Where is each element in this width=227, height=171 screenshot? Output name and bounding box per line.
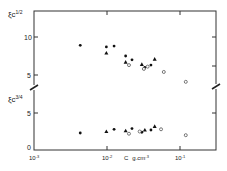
data-point-circle <box>138 130 141 133</box>
ytick-label: 10 <box>24 34 32 41</box>
data-point-circle <box>127 132 130 135</box>
xtick-label: 10-1 <box>175 154 186 161</box>
data-point-dot <box>113 128 116 131</box>
data-point-dot <box>113 45 116 48</box>
ylabel-upper: ξc1/2 <box>8 9 23 19</box>
data-point-circle <box>184 80 187 83</box>
data-point-dot <box>150 129 153 132</box>
data-point-triangle <box>153 124 157 128</box>
data-point-circle <box>127 64 130 67</box>
plot-frame <box>34 11 216 150</box>
xtick-label: 10-2 <box>102 154 113 161</box>
data-point-circle <box>162 70 165 73</box>
data-points <box>79 44 187 137</box>
data-point-triangle <box>143 128 147 132</box>
data-point-dot <box>131 58 134 61</box>
data-point-triangle <box>104 51 108 55</box>
xlabel: Cg.cm-3 <box>124 154 150 161</box>
data-point-dot <box>79 44 82 47</box>
ytick-label: 5 <box>27 72 31 79</box>
data-point-dot <box>105 45 108 48</box>
ytick-label: 0 <box>27 144 31 151</box>
data-point-triangle <box>124 60 128 64</box>
ytick-label: 5 <box>27 110 31 117</box>
data-point-triangle <box>140 62 144 66</box>
data-point-dot <box>131 127 134 130</box>
data-point-circle <box>146 65 149 68</box>
data-point-triangle <box>124 129 128 133</box>
ylabel-lower: ξc3/4 <box>8 94 23 104</box>
data-point-circle <box>160 128 163 131</box>
data-point-dot <box>79 132 82 135</box>
scatter-chart: ξc1/2 ξc3/4 10 5 5 0 10-3 10-2 10-1 Cg.c… <box>0 0 227 171</box>
data-point-circle <box>142 67 145 70</box>
data-point-dot <box>150 64 153 67</box>
data-point-triangle <box>104 130 108 134</box>
xtick-label: 10-3 <box>29 154 40 161</box>
data-point-triangle <box>153 57 157 61</box>
data-point-dot <box>124 55 127 58</box>
data-point-circle <box>184 134 187 137</box>
